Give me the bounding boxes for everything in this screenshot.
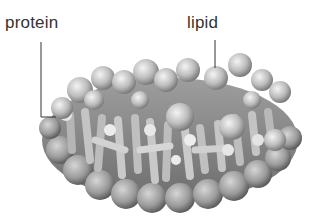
- protein-label: protein: [5, 13, 58, 33]
- lipid-label: lipid: [187, 13, 218, 33]
- nanodisc-illustration: [0, 0, 315, 221]
